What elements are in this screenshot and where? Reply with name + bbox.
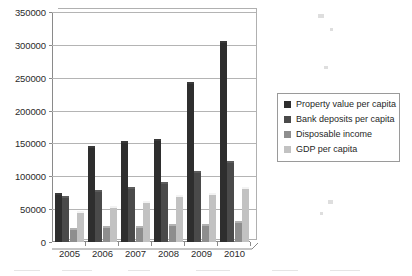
bar-group (88, 12, 118, 242)
y-axis-label: 50000 (20, 204, 46, 215)
plot-area: 0500001000001500002000002500003000003500… (52, 12, 250, 242)
bar-top-face (110, 206, 117, 208)
bar (103, 228, 110, 242)
y-axis-label: 300000 (15, 39, 46, 50)
bar-top-face (103, 226, 110, 228)
bar-group (220, 12, 250, 242)
bar-top-face (143, 201, 150, 203)
legend-swatch-icon (284, 131, 291, 138)
bar (161, 184, 168, 242)
y-axis-label: 100000 (15, 171, 46, 182)
bar (169, 226, 176, 242)
bar (77, 213, 84, 242)
legend-item[interactable]: GDP per capita (284, 145, 394, 155)
legend-label: Property value per capita (296, 100, 396, 110)
bar-top-face (209, 193, 216, 195)
bar-top-face (62, 196, 69, 198)
bar-top-face (227, 161, 234, 163)
bar-top-face (220, 41, 227, 43)
bar (62, 198, 69, 242)
bar-top-face (169, 224, 176, 226)
bar (55, 195, 62, 242)
legend-label: Bank deposits per capita (296, 115, 395, 125)
bar-group (187, 12, 217, 242)
bar (136, 228, 143, 242)
legend-item[interactable]: Disposable income (284, 130, 394, 140)
scan-artifact (0, 266, 412, 276)
legend-label: Disposable income (296, 130, 372, 140)
legend-item[interactable]: Bank deposits per capita (284, 115, 394, 125)
bar-top-face (95, 190, 102, 192)
bar-top-face (121, 141, 128, 143)
scan-speck (324, 66, 328, 69)
bar (176, 197, 183, 242)
legend-label: GDP per capita (296, 145, 357, 155)
bar-top-face (235, 221, 242, 223)
bar-top-face (161, 182, 168, 184)
bar-groups (52, 12, 250, 242)
bar-top-face (176, 195, 183, 197)
y-axis-label: 150000 (15, 138, 46, 149)
bar (194, 173, 201, 242)
scan-speck (328, 200, 333, 204)
bar (235, 223, 242, 242)
legend-swatch-icon (284, 146, 291, 153)
scan-speck (320, 212, 323, 215)
chart-page: 0500001000001500002000002500003000003500… (0, 0, 412, 276)
legend-swatch-icon (284, 101, 291, 108)
chart-legend: Property value per capitaBank deposits p… (277, 93, 400, 162)
bar (242, 189, 249, 242)
y-axis-label: 350000 (15, 7, 46, 18)
bar-top-face (88, 146, 95, 148)
scan-speck (318, 14, 324, 18)
bar-top-face (77, 211, 84, 213)
bar-top-face (187, 82, 194, 84)
bar-group (121, 12, 151, 242)
bar (128, 189, 135, 242)
y-axis-label: 250000 (15, 72, 46, 83)
bar-top-face (136, 226, 143, 228)
bar-top-face (194, 171, 201, 173)
bar (202, 226, 209, 242)
y-axis-label: 0 (41, 237, 46, 248)
bar (95, 192, 102, 242)
bar-group (55, 12, 85, 242)
bar (154, 141, 161, 242)
bar-group (154, 12, 184, 242)
bar-top-face (154, 139, 161, 141)
bar (70, 230, 77, 242)
legend-item[interactable]: Property value per capita (284, 100, 394, 110)
legend-swatch-icon (284, 116, 291, 123)
bar (220, 43, 227, 242)
bar (121, 143, 128, 242)
scan-speck (330, 28, 333, 31)
bar (143, 203, 150, 242)
bar-top-face (128, 187, 135, 189)
bar (209, 195, 216, 242)
axis-floor (52, 242, 258, 250)
bar (187, 84, 194, 242)
bar (110, 208, 117, 242)
bar (88, 148, 95, 242)
bar-chart: 0500001000001500002000002500003000003500… (0, 0, 272, 276)
bar-top-face (202, 224, 209, 226)
bar (227, 163, 234, 242)
bar-top-face (70, 228, 77, 230)
bar-top-face (55, 193, 62, 195)
bar-top-face (242, 187, 249, 189)
y-axis-label: 200000 (15, 105, 46, 116)
